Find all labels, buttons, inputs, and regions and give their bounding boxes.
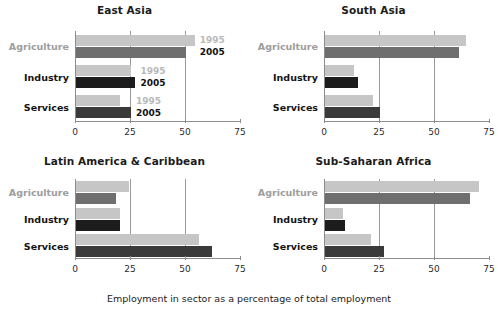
category-label-industry: Industry [249, 214, 318, 225]
panel-title: East Asia [0, 4, 249, 16]
panel-title: Sub-Saharan Africa [249, 155, 498, 167]
category-label-agriculture: Agriculture [0, 187, 69, 198]
chart-figure: East AsiaAgriculture19952005Industry1995… [0, 0, 498, 310]
x-axis-tick-label: 0 [72, 264, 78, 274]
panel-title: Latin America & Caribbean [0, 155, 249, 167]
x-axis-tick [489, 119, 490, 123]
bar-2005 [325, 193, 470, 204]
x-axis-line [75, 258, 240, 259]
bar-2005 [325, 107, 380, 118]
x-axis-tick-label: 75 [234, 264, 245, 274]
x-axis-tick-label: 0 [321, 264, 327, 274]
bar-2005 [76, 77, 135, 88]
category-label-industry: Industry [0, 214, 69, 225]
chart-caption: Employment in sector as a percentage of … [0, 293, 498, 304]
x-axis-tick [130, 119, 131, 123]
bar-1995 [76, 234, 199, 245]
x-axis-tick [379, 256, 380, 260]
bar-2005 [325, 77, 358, 88]
x-axis-tick [75, 119, 76, 123]
category-label-industry: Industry [0, 71, 69, 82]
chart-panel: Latin America & CaribbeanAgricultureIndu… [0, 155, 249, 288]
bar-1995 [325, 65, 354, 76]
category-label-services: Services [249, 240, 318, 251]
x-axis-tick-label: 50 [428, 127, 439, 137]
plot-area [324, 179, 489, 259]
bar-1995 [76, 208, 120, 219]
bar-2005 [76, 107, 131, 118]
x-axis-line [75, 121, 240, 122]
x-axis-tick [324, 256, 325, 260]
x-axis-tick-label: 75 [483, 127, 494, 137]
bar-2005 [325, 47, 459, 58]
x-axis-tick [240, 119, 241, 123]
chart-panel: Sub-Saharan AfricaAgricultureIndustrySer… [249, 155, 498, 288]
category-label-agriculture: Agriculture [249, 41, 318, 52]
x-axis-tick [324, 119, 325, 123]
x-axis-tick [434, 256, 435, 260]
x-axis-tick-label: 0 [72, 127, 78, 137]
bar-2005 [76, 193, 116, 204]
bar-1995 [325, 181, 479, 192]
category-label-agriculture: Agriculture [0, 41, 69, 52]
category-label-agriculture: Agriculture [249, 187, 318, 198]
chart-panel: East AsiaAgriculture19952005Industry1995… [0, 4, 249, 149]
category-label-services: Services [0, 101, 69, 112]
x-axis-tick-label: 25 [373, 264, 384, 274]
x-axis-tick [434, 119, 435, 123]
x-axis-tick-label: 75 [483, 264, 494, 274]
bar-2005 [76, 220, 120, 231]
bar-1995 [76, 181, 129, 192]
bar-1995 [76, 65, 131, 76]
bar-1995 [76, 35, 195, 46]
x-axis-tick-label: 25 [373, 127, 384, 137]
y-axis-line [324, 31, 325, 122]
y-axis-line [75, 31, 76, 122]
x-axis-tick [185, 119, 186, 123]
x-axis-tick-label: 25 [124, 264, 135, 274]
x-axis-tick [240, 256, 241, 260]
bar-1995 [325, 95, 373, 106]
x-axis-tick [75, 256, 76, 260]
x-axis-tick [130, 256, 131, 260]
x-axis-line [324, 258, 489, 259]
x-axis-tick-label: 50 [179, 264, 190, 274]
bar-1995 [325, 234, 371, 245]
x-axis-tick-label: 25 [124, 127, 135, 137]
x-axis-tick-label: 75 [234, 127, 245, 137]
category-label-services: Services [249, 101, 318, 112]
bar-2005 [76, 246, 212, 257]
plot-area [75, 31, 240, 122]
category-label-services: Services [0, 240, 69, 251]
bar-2005 [325, 220, 345, 231]
category-label-industry: Industry [249, 71, 318, 82]
panel-title: South Asia [249, 4, 498, 16]
x-axis-tick-label: 50 [428, 264, 439, 274]
y-axis-line [324, 179, 325, 259]
bar-2005 [325, 246, 384, 257]
plot-area [75, 179, 240, 259]
x-axis-tick [185, 256, 186, 260]
y-axis-line [75, 179, 76, 259]
x-axis-line [324, 121, 489, 122]
plot-area [324, 31, 489, 122]
x-axis-tick [379, 119, 380, 123]
x-axis-tick [489, 256, 490, 260]
x-axis-tick-label: 0 [321, 127, 327, 137]
chart-panel: South AsiaAgricultureIndustryServices025… [249, 4, 498, 149]
bar-1995 [325, 208, 343, 219]
bar-1995 [325, 35, 466, 46]
bar-2005 [76, 47, 186, 58]
bar-1995 [76, 95, 120, 106]
x-axis-tick-label: 50 [179, 127, 190, 137]
